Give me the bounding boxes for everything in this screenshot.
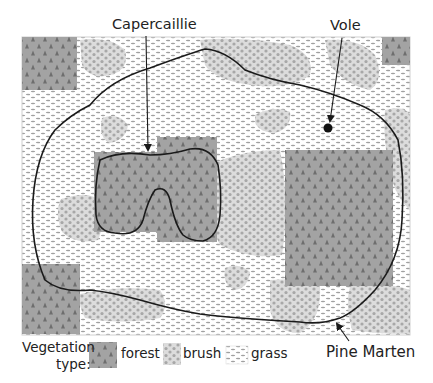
pine-marten-label: Pine Marten: [326, 345, 415, 360]
legend-title-line1: Vegetation: [22, 341, 95, 355]
legend-swatch-brush: [163, 343, 181, 365]
habitat-map: [0, 0, 433, 383]
legend-swatch-grass: [226, 346, 248, 364]
capercaillie-label: Capercaillie: [112, 17, 197, 32]
vole-location-dot: [324, 124, 333, 133]
vole-label: Vole: [330, 18, 361, 33]
legend-label-grass: grass: [251, 347, 287, 361]
legend-label-brush: brush: [183, 347, 221, 361]
legend-label-forest: forest: [121, 347, 160, 361]
legend-title-line2: type:: [56, 358, 91, 372]
